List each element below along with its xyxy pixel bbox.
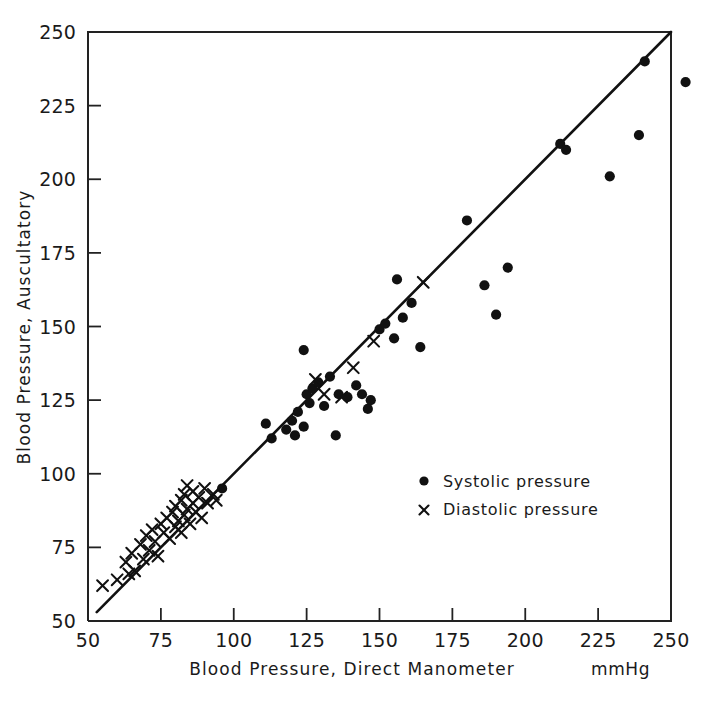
x-tick-label: 200 (507, 629, 544, 651)
data-point-systolic (299, 345, 309, 355)
unit-label: mmHg (591, 659, 650, 679)
data-point-systolic (351, 380, 361, 390)
data-point-systolic (680, 77, 690, 87)
y-axis-ticks (88, 106, 101, 548)
x-axis-title: Blood Pressure, Direct Manometer (189, 659, 515, 679)
data-point-systolic (267, 433, 277, 443)
legend-label-diastolic: Diastolic pressure (443, 500, 598, 519)
data-point-systolic (357, 389, 367, 399)
blood-pressure-scatter-figure: 5075100125150175200225250 50751001251501… (0, 0, 703, 708)
data-point-diastolic (368, 336, 379, 347)
x-tick-label: 175 (434, 629, 471, 651)
data-point-systolic (319, 401, 329, 411)
data-point-systolic (287, 416, 297, 426)
systolic-series-points (217, 56, 691, 493)
x-axis-ticks (161, 608, 598, 621)
x-tick-label: 50 (76, 629, 101, 651)
data-point-diastolic (418, 277, 429, 288)
y-tick-label: 125 (39, 389, 76, 411)
data-point-systolic (281, 424, 291, 434)
data-point-systolic (304, 398, 314, 408)
data-point-systolic (640, 56, 650, 66)
y-tick-label: 150 (39, 316, 76, 338)
data-point-systolic (503, 263, 513, 273)
data-point-systolic (398, 313, 408, 323)
data-point-systolic (261, 419, 271, 429)
diastolic-series-points (97, 277, 428, 591)
x-axis-tick-labels: 5075100125150175200225250 (76, 629, 690, 651)
data-point-systolic (462, 215, 472, 225)
data-point-diastolic (164, 533, 175, 544)
data-point-systolic (293, 407, 303, 417)
y-tick-label: 75 (51, 536, 76, 558)
data-point-systolic (415, 342, 425, 352)
scatter-plot-svg: 5075100125150175200225250 50751001251501… (0, 0, 703, 708)
data-point-systolic (605, 171, 615, 181)
cross-marker-icon (420, 506, 429, 515)
data-point-systolic (331, 430, 341, 440)
data-point-systolic (299, 422, 309, 432)
x-tick-label: 125 (288, 629, 325, 651)
data-point-systolic (325, 371, 335, 381)
data-point-diastolic (348, 362, 359, 373)
x-tick-label: 250 (653, 629, 690, 651)
x-tick-label: 75 (149, 629, 174, 651)
data-point-systolic (634, 130, 644, 140)
y-tick-label: 250 (39, 21, 76, 43)
y-tick-label: 175 (39, 242, 76, 264)
data-point-systolic (491, 310, 501, 320)
x-tick-label: 150 (361, 629, 398, 651)
y-axis-title: Blood Pressure, Auscultatory (14, 190, 34, 465)
data-point-systolic (366, 395, 376, 405)
y-tick-label: 200 (39, 168, 76, 190)
y-tick-label: 225 (39, 95, 76, 117)
data-point-systolic (380, 318, 390, 328)
x-tick-label: 225 (580, 629, 617, 651)
dot-marker-icon (419, 476, 428, 485)
data-point-systolic (479, 280, 489, 290)
chart-legend: Systolic pressure Diastolic pressure (419, 472, 598, 519)
y-tick-label: 100 (39, 463, 76, 485)
y-axis-tick-labels: 5075100125150175200225250 (39, 21, 76, 632)
data-point-systolic (363, 404, 373, 414)
data-point-diastolic (196, 513, 207, 524)
data-point-diastolic (319, 389, 330, 400)
data-point-systolic (290, 430, 300, 440)
data-point-diastolic (112, 574, 123, 585)
data-point-diastolic (97, 580, 108, 591)
x-tick-label: 100 (215, 629, 252, 651)
data-point-systolic (389, 333, 399, 343)
y-tick-label: 50 (51, 610, 76, 632)
data-point-systolic (406, 298, 416, 308)
data-point-systolic (392, 274, 402, 284)
legend-label-systolic: Systolic pressure (443, 472, 591, 491)
data-point-systolic (561, 145, 571, 155)
